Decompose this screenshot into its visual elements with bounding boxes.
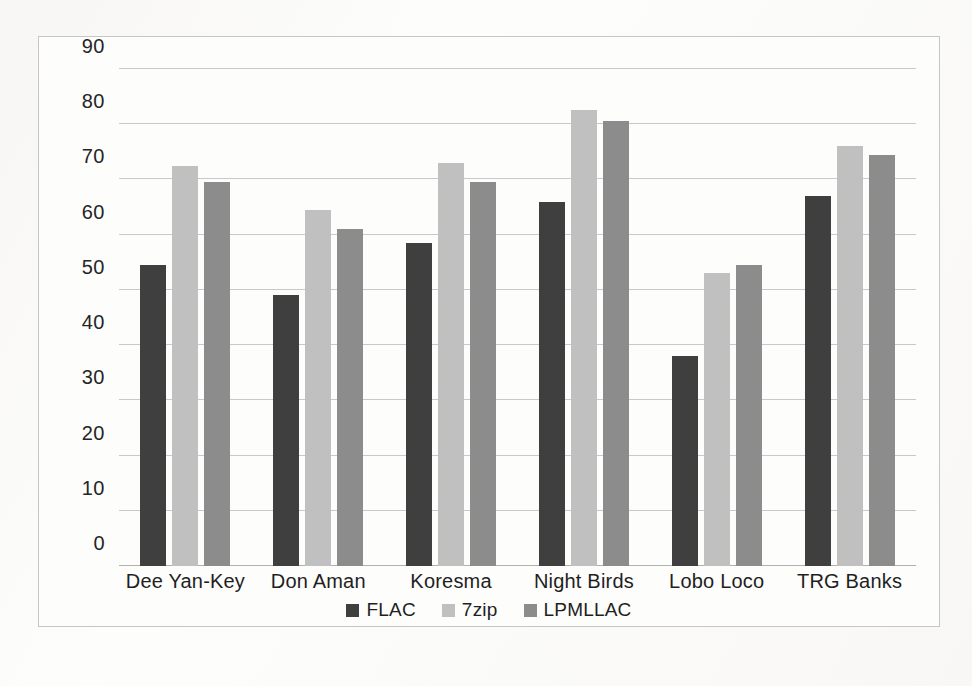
legend-swatch-7zip [442,604,455,617]
bar-lpmllac-lobo-loco [736,265,762,566]
y-tick-label-0: 0 [93,532,105,555]
legend-swatch-lpmllac [524,604,537,617]
legend-item-7zip[interactable]: 7zip [442,599,498,621]
legend-label-lpmllac: LPMLLAC [544,599,632,621]
bar-flac-koresma [406,243,432,566]
y-tick-label-20: 20 [82,421,105,444]
bar-7zip-night-birds [571,110,597,566]
category-label-don-aman: Don Aman [252,570,385,593]
chart-legend: FLAC7zipLPMLLAC [39,599,939,621]
category-label-dee-yan-key: Dee Yan-Key [119,570,252,593]
bar-group [385,69,518,566]
chart-frame: 9080706050403020100 Dee Yan-KeyDon AmanK… [38,36,940,627]
bar-7zip-dee-yan-key [172,166,198,566]
bar-flac-night-birds [539,202,565,566]
bar-lpmllac-night-birds [603,121,629,566]
category-label-lobo-loco: Lobo Loco [650,570,783,593]
bar-lpmllac-koresma [470,182,496,566]
legend-swatch-flac [346,604,359,617]
y-tick-label-70: 70 [82,145,105,168]
legend-label-7zip: 7zip [462,599,498,621]
plot-area: 9080706050403020100 [119,69,916,566]
bar-flac-dee-yan-key [140,265,166,566]
bar-flac-lobo-loco [672,356,698,566]
bar-lpmllac-trg-banks [869,155,895,566]
bar-flac-don-aman [273,295,299,566]
category-label-night-birds: Night Birds [517,570,650,593]
y-tick-label-30: 30 [82,366,105,389]
bar-lpmllac-don-aman [337,229,363,566]
bar-group [517,69,650,566]
category-label-koresma: Koresma [385,570,518,593]
bar-flac-trg-banks [805,196,831,566]
bar-group [783,69,916,566]
y-tick-label-90: 90 [82,35,105,58]
bars-layer [119,69,916,566]
y-tick-label-50: 50 [82,255,105,278]
y-tick-label-10: 10 [82,476,105,499]
bar-7zip-don-aman [305,210,331,566]
y-tick-label-40: 40 [82,311,105,334]
category-axis: Dee Yan-KeyDon AmanKoresmaNight BirdsLob… [119,570,916,593]
bar-7zip-koresma [438,163,464,566]
bar-group [252,69,385,566]
y-tick-label-60: 60 [82,200,105,223]
bar-group [119,69,252,566]
y-tick-label-80: 80 [82,90,105,113]
bar-lpmllac-dee-yan-key [204,182,230,566]
legend-label-flac: FLAC [366,599,415,621]
category-label-trg-banks: TRG Banks [783,570,916,593]
bar-7zip-lobo-loco [704,273,730,566]
bar-group [650,69,783,566]
bar-7zip-trg-banks [837,146,863,566]
legend-item-flac[interactable]: FLAC [346,599,415,621]
legend-item-lpmllac[interactable]: LPMLLAC [524,599,632,621]
